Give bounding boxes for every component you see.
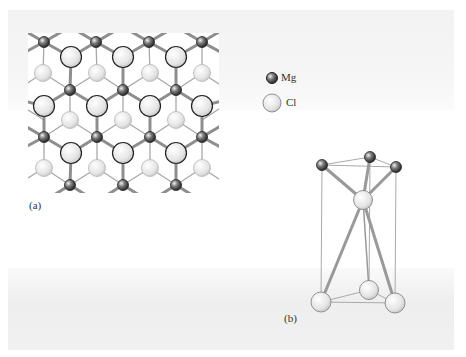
cl-atom: [385, 293, 405, 313]
diagram-canvas: [0, 0, 466, 357]
panel-b-label: (b): [284, 312, 297, 324]
cl-legend-icon: [263, 94, 281, 112]
cl-atom: [311, 292, 331, 312]
mg-legend-icon: [267, 73, 278, 84]
mgcl2-layer-lattice: [20, 28, 226, 200]
legend-label-mg: Mg: [281, 71, 296, 83]
mg-atom: [365, 152, 376, 163]
cl-atom: [360, 281, 379, 300]
mgcl2-unit-cell: [311, 152, 405, 314]
cl-atom: [354, 191, 373, 210]
legend-label-cl: Cl: [286, 96, 296, 108]
mg-atom: [317, 160, 328, 171]
panel-a-label: (a): [29, 199, 41, 211]
mg-atom: [391, 162, 402, 173]
